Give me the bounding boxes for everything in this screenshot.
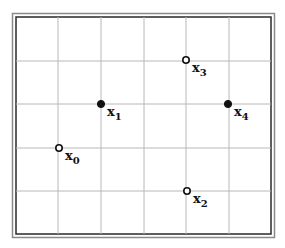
point-label-x3: x3 <box>192 60 207 78</box>
point-label-x0: x0 <box>65 148 80 166</box>
point-label-x1: x1 <box>107 104 122 122</box>
point-label-x4: x4 <box>234 104 249 122</box>
filled-point-marker <box>224 100 231 107</box>
filled-point-marker <box>97 100 104 107</box>
point-label-x2: x2 <box>193 191 208 209</box>
grid <box>16 17 271 234</box>
open-point-marker <box>56 145 62 151</box>
open-point-marker <box>184 188 190 194</box>
point-grid-diagram: x0 x1 x2 x3 x4 <box>0 0 285 248</box>
open-point-marker <box>183 57 189 63</box>
